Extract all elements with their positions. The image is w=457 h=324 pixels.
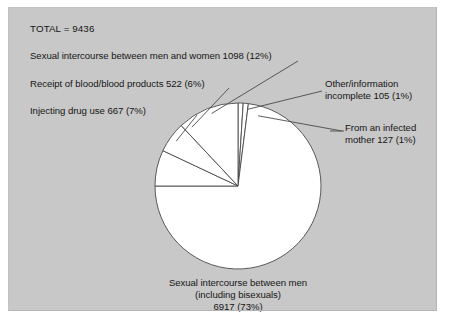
slice-label-heterosexual: Sexual intercourse between men and women… (30, 50, 272, 62)
chart-plate: TOTAL = 9436 Sexual intercourse between … (8, 7, 437, 311)
slice-label-injecting-drug-use: Injecting drug use 667 (7%) (30, 105, 146, 117)
figure-container: TOTAL = 9436 Sexual intercourse between … (0, 0, 457, 324)
slice-label-men-including-bisexuals: Sexual intercourse between men (includin… (138, 277, 338, 314)
slice-label-blood-products: Receipt of blood/blood products 522 (6%) (30, 78, 205, 90)
slice-label-other-information-incomplete: Other/information incomplete 105 (1%) (325, 78, 412, 101)
leader-line (247, 91, 322, 109)
pie-slices (155, 103, 321, 269)
total-label: TOTAL = 9436 (30, 23, 94, 35)
slice-label-infected-mother: From an infected mother 127 (1%) (345, 122, 416, 145)
